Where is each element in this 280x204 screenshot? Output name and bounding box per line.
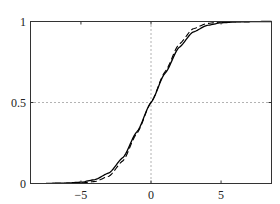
- y-tick-label: 1: [20, 15, 26, 29]
- axis-ticks: −50500.51: [11, 15, 272, 203]
- y-tick-label: 0: [20, 177, 26, 191]
- chart: −50500.51: [0, 0, 280, 204]
- x-tick-label: 5: [218, 188, 224, 202]
- y-tick-label: 0.5: [11, 96, 26, 110]
- x-tick-label: 0: [148, 188, 154, 202]
- x-tick-label: −5: [75, 188, 88, 202]
